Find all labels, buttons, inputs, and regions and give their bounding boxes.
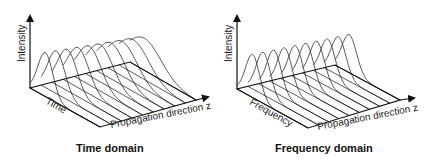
floor-slice-line	[324, 68, 390, 103]
intensity-axis-label: Intensity	[16, 25, 27, 62]
pulse-curve	[281, 46, 349, 116]
frequency-axis-label: Frequency	[248, 96, 295, 129]
intensity-axis-label: Intensity	[223, 25, 234, 62]
propagation-axis-arrow-icon	[400, 98, 414, 100]
frequency-domain-panel: Intensity Frequency Propagation directio…	[223, 16, 419, 154]
time-domain-panel: Intensity Time Propagation direction z T…	[16, 16, 212, 154]
panel-caption: Frequency domain	[275, 142, 373, 154]
pulse-curve	[302, 41, 369, 109]
pulse-curve	[324, 37, 390, 103]
pulse-curve	[291, 43, 359, 112]
floor-slice-line	[313, 70, 379, 106]
pulse-curve	[335, 35, 400, 100]
pulse-curve	[313, 39, 379, 106]
waveform-diagram: Intensity Time Propagation direction z T…	[0, 0, 435, 167]
panel-caption: Time domain	[76, 142, 144, 154]
floor-slice-line	[119, 65, 185, 103]
